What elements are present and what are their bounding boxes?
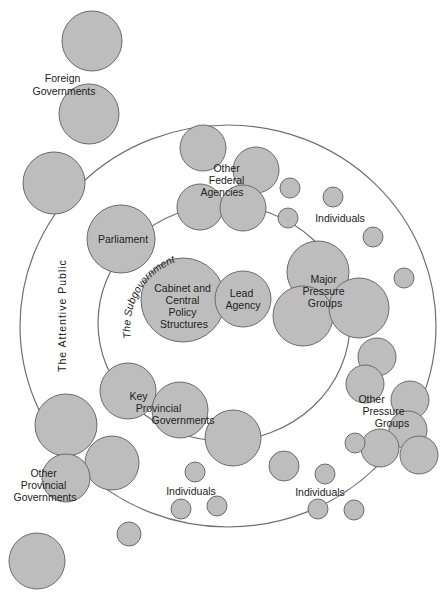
lead-agency-label: Lead Agency [225, 287, 261, 311]
parliament-label: Parliament [98, 233, 148, 245]
other-pressure-groups-node [361, 429, 399, 467]
individuals-node [207, 496, 227, 516]
individuals-bottom-right-label: Individuals [295, 486, 345, 498]
other-provincial-governments-node [85, 436, 139, 490]
other-pressure-groups-node [345, 433, 365, 453]
individuals-node [323, 187, 343, 207]
individuals-node [308, 499, 328, 519]
individuals-node [269, 451, 299, 481]
individuals-node [280, 178, 300, 198]
individuals-node [394, 268, 414, 288]
policy-community-diagram: The Attentive Public The Subgovernment F… [0, 0, 447, 602]
foreign-governments-label: Foreign Governments [32, 72, 95, 97]
other-pressure-groups-node [400, 436, 438, 474]
individuals-bottom-left-label: Individuals [166, 485, 216, 497]
individuals-node [185, 462, 205, 482]
individuals-node [363, 227, 383, 247]
attentive-public-edge-node [23, 152, 85, 214]
individuals-node [315, 464, 335, 484]
attentive-public-edge-node [35, 394, 97, 456]
foreign-governments-node [62, 11, 122, 71]
individuals-node [117, 522, 141, 546]
individuals-node [344, 500, 364, 520]
other-provincial-governments-node [9, 533, 65, 589]
attentive-public-label: The Attentive Public [56, 259, 68, 372]
individuals-top-label: Individuals [315, 212, 365, 224]
individuals-node [278, 208, 298, 228]
individuals-node [171, 499, 191, 519]
